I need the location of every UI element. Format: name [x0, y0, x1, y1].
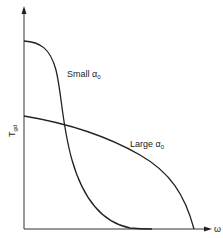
- x-axis-label: ω: [214, 224, 221, 234]
- y-axis-label: Tgd: [7, 125, 18, 137]
- x-axis-arrow-icon: [204, 227, 212, 232]
- label-large-alpha: Large α0: [130, 139, 165, 150]
- label-small-alpha: Small α0: [67, 69, 101, 80]
- y-axis-arrow-icon: [22, 6, 27, 14]
- series-large-alpha: [24, 116, 194, 229]
- chart: Small α0 Large α0 Tgd ω: [0, 0, 223, 238]
